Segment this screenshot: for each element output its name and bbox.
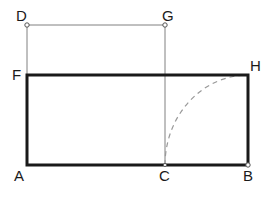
label-c: C: [159, 167, 170, 184]
label-a: A: [14, 167, 24, 184]
geometry-diagram: D G F H A C B: [0, 0, 270, 199]
label-h: H: [250, 57, 261, 74]
geometry-canvas: D G F H A C B: [0, 0, 270, 199]
label-d: D: [16, 7, 27, 24]
dashed-arc-CH: [165, 75, 248, 165]
label-g: G: [162, 7, 174, 24]
label-b: B: [243, 167, 253, 184]
rectangle-ABHF: [27, 75, 248, 165]
label-f: F: [12, 66, 21, 83]
